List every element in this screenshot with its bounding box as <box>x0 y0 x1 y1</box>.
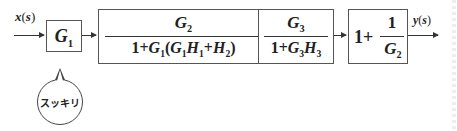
block-g1: G1 <box>46 20 82 52</box>
bubble-text: スッキリ <box>40 95 80 110</box>
block-2: G2 1+G1(G1H1+H2) <box>98 9 269 64</box>
block-3-box: G3 1+G3H3 <box>258 9 334 64</box>
arrow-3 <box>334 35 346 36</box>
page-edge <box>452 0 456 131</box>
arrow-1 <box>82 35 96 36</box>
output-label: y(s) <box>413 13 431 28</box>
output-arrow <box>408 35 438 36</box>
bubble-tail-fill <box>57 70 63 81</box>
speech-bubble: スッキリ <box>37 79 83 125</box>
block-4: 1+ 1 G2 <box>348 9 408 64</box>
input-label: x(s) <box>15 9 35 25</box>
input-arrow <box>14 35 44 36</box>
